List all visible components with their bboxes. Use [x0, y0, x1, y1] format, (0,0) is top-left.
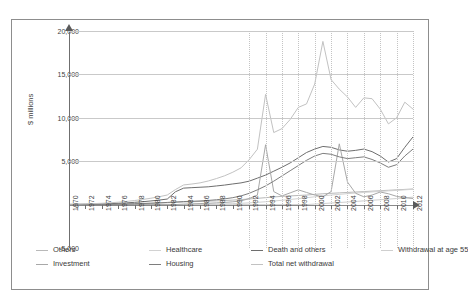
x-tick-label: 1976: [121, 195, 128, 211]
x-tick-mark: [151, 205, 152, 209]
x-tick-mark: [102, 205, 103, 209]
gridline-x: [413, 31, 414, 248]
chart-legend: OthersHealthcareDeath and othersWithdraw…: [36, 246, 426, 274]
gridline-x: [397, 31, 398, 248]
legend-swatch-icon: [251, 264, 263, 265]
x-tick-label: 1994: [269, 195, 276, 211]
x-tick-mark: [298, 205, 299, 209]
y-axis-title: $ millions: [26, 94, 35, 125]
x-axis-arrow-icon: [413, 201, 420, 209]
legend-item[interactable]: Housing: [149, 260, 194, 268]
x-tick-mark: [85, 205, 86, 209]
legend-label: Healthcare: [166, 246, 202, 254]
x-tick-mark: [331, 205, 332, 209]
x-tick-mark: [200, 205, 201, 209]
x-tick-label: 1998: [301, 195, 308, 211]
x-tick-label: 1974: [105, 195, 112, 211]
x-tick-label: 1980: [154, 195, 161, 211]
plot-area: 1970197219741976197819801982198419861988…: [69, 31, 413, 248]
x-tick-label: 1990: [236, 195, 243, 211]
x-tick-label: 2010: [400, 195, 407, 211]
gridline-x: [266, 31, 267, 248]
x-tick-label: 1970: [72, 195, 79, 211]
x-tick-label: 1988: [219, 195, 226, 211]
x-tick-label: 1986: [203, 195, 210, 211]
gridline-x: [364, 31, 365, 248]
x-tick-label: 1996: [285, 195, 292, 211]
x-tick-label: 2008: [383, 195, 390, 211]
legend-row: OthersHealthcareDeath and othersWithdraw…: [36, 246, 426, 260]
legend-item[interactable]: Death and others: [251, 246, 326, 254]
x-tick-mark: [282, 205, 283, 209]
x-tick-mark: [233, 205, 234, 209]
axis-lines: [69, 31, 413, 248]
legend-label: Death and others: [268, 246, 326, 254]
legend-swatch-icon: [149, 264, 161, 265]
legend-swatch-icon: [36, 250, 48, 251]
x-tick-mark: [397, 205, 398, 209]
legend-swatch-icon: [251, 250, 263, 251]
gridline-x: [380, 31, 381, 248]
x-tick-label: 2000: [318, 195, 325, 211]
legend-label: Housing: [166, 260, 194, 268]
x-tick-label: 1984: [187, 195, 194, 211]
x-tick-label: 1982: [170, 195, 177, 211]
legend-item[interactable]: Healthcare: [149, 246, 202, 254]
x-tick-label: 1978: [138, 195, 145, 211]
gridline-x: [331, 31, 332, 248]
x-tick-mark: [266, 205, 267, 209]
gridline-x: [315, 31, 316, 248]
x-tick-label: 2006: [367, 195, 374, 211]
x-tick-label: 2002: [334, 195, 341, 211]
x-tick-mark: [315, 205, 316, 209]
x-tick-label: 1992: [252, 195, 259, 211]
x-tick-label: 2004: [350, 195, 357, 211]
legend-swatch-icon: [149, 250, 161, 251]
x-tick-mark: [347, 205, 348, 209]
legend-label: Others: [53, 246, 76, 254]
legend-label: Investment: [53, 260, 90, 268]
legend-swatch-icon: [381, 250, 393, 251]
gridline-y: [69, 74, 413, 75]
gridline-x: [298, 31, 299, 248]
x-tick-mark: [184, 205, 185, 209]
legend-swatch-icon: [36, 264, 48, 265]
x-tick-mark: [135, 205, 136, 209]
gridline-y: [69, 31, 413, 32]
legend-label: Total net withdrawal: [268, 260, 334, 268]
gridline-y: [69, 118, 413, 119]
gridline-x: [249, 31, 250, 248]
y-axis-arrow-icon: [65, 24, 73, 31]
x-tick-mark: [249, 205, 250, 209]
x-tick-mark: [69, 205, 70, 209]
legend-item[interactable]: Withdrawal at age 55: [381, 246, 468, 254]
legend-item[interactable]: Total net withdrawal: [251, 260, 334, 268]
chart-figure: $ millions 20,00015,00010,0005,0000-5,00…: [11, 19, 429, 290]
x-tick-mark: [118, 205, 119, 209]
x-tick-mark: [167, 205, 168, 209]
x-tick-mark: [380, 205, 381, 209]
gridline-y: [69, 161, 413, 162]
legend-row: InvestmentHousingTotal net withdrawal: [36, 260, 426, 274]
legend-item[interactable]: Others: [36, 246, 76, 254]
gridline-x: [347, 31, 348, 248]
gridline-x: [282, 31, 283, 248]
legend-label: Withdrawal at age 55: [398, 246, 468, 254]
x-tick-label: 1972: [88, 195, 95, 211]
x-tick-mark: [216, 205, 217, 209]
legend-item[interactable]: Investment: [36, 260, 90, 268]
x-tick-mark: [364, 205, 365, 209]
